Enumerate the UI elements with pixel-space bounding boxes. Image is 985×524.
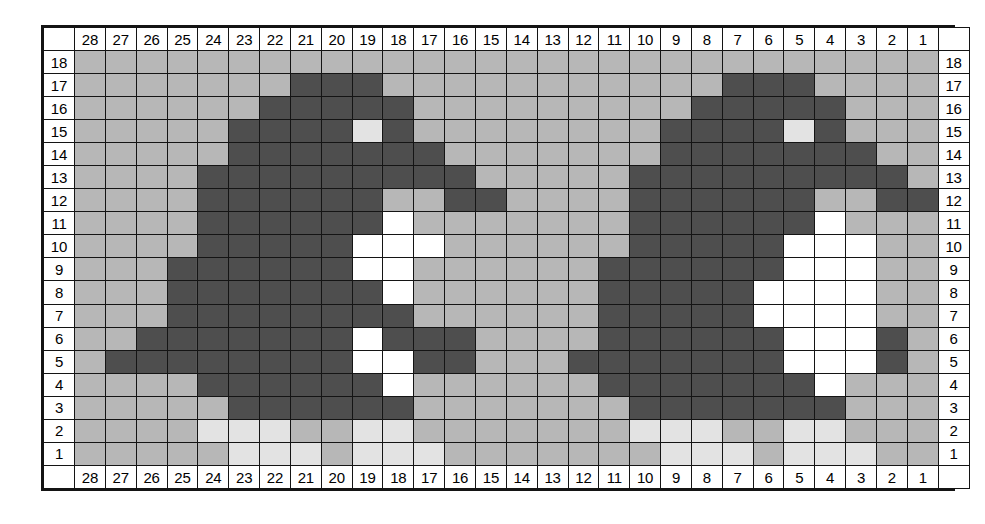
chart-cell-r6-c16[interactable] — [445, 327, 476, 350]
chart-cell-r13-c23[interactable] — [229, 166, 260, 189]
chart-cell-r3-c2[interactable] — [876, 396, 907, 419]
chart-cell-r8-c15[interactable] — [475, 281, 506, 304]
chart-cell-r2-c6[interactable] — [753, 419, 784, 442]
chart-cell-r18-c17[interactable] — [414, 51, 445, 74]
chart-cell-r18-c18[interactable] — [383, 51, 414, 74]
chart-cell-r4-c5[interactable] — [784, 373, 815, 396]
chart-cell-r16-c11[interactable] — [599, 97, 630, 120]
chart-cell-r15-c28[interactable] — [75, 120, 106, 143]
chart-cell-r13-c13[interactable] — [537, 166, 568, 189]
chart-cell-r11-c27[interactable] — [105, 212, 136, 235]
chart-cell-r1-c2[interactable] — [876, 442, 907, 465]
chart-cell-r4-c6[interactable] — [753, 373, 784, 396]
chart-cell-r10-c15[interactable] — [475, 235, 506, 258]
chart-cell-r10-c7[interactable] — [722, 235, 753, 258]
chart-cell-r3-c6[interactable] — [753, 396, 784, 419]
chart-cell-r9-c21[interactable] — [290, 258, 321, 281]
chart-cell-r17-c21[interactable] — [290, 74, 321, 97]
chart-cell-r5-c25[interactable] — [167, 350, 198, 373]
chart-cell-r9-c26[interactable] — [136, 258, 167, 281]
chart-cell-r8-c11[interactable] — [599, 281, 630, 304]
chart-cell-r15-c25[interactable] — [167, 120, 198, 143]
chart-cell-r15-c15[interactable] — [475, 120, 506, 143]
chart-cell-r8-c22[interactable] — [260, 281, 291, 304]
chart-cell-r8-c13[interactable] — [537, 281, 568, 304]
chart-cell-r9-c1[interactable] — [907, 258, 938, 281]
chart-cell-r16-c18[interactable] — [383, 97, 414, 120]
chart-cell-r10-c25[interactable] — [167, 235, 198, 258]
chart-cell-r11-c8[interactable] — [691, 212, 722, 235]
chart-cell-r15-c18[interactable] — [383, 120, 414, 143]
chart-cell-r15-c6[interactable] — [753, 120, 784, 143]
chart-cell-r11-c5[interactable] — [784, 212, 815, 235]
chart-cell-r3-c8[interactable] — [691, 396, 722, 419]
chart-cell-r5-c23[interactable] — [229, 350, 260, 373]
chart-cell-r1-c19[interactable] — [352, 442, 383, 465]
chart-cell-r15-c16[interactable] — [445, 120, 476, 143]
chart-cell-r1-c6[interactable] — [753, 442, 784, 465]
chart-cell-r1-c13[interactable] — [537, 442, 568, 465]
chart-cell-r3-c17[interactable] — [414, 396, 445, 419]
chart-cell-r3-c22[interactable] — [260, 396, 291, 419]
chart-cell-r7-c6[interactable] — [753, 304, 784, 327]
chart-cell-r5-c17[interactable] — [414, 350, 445, 373]
chart-cell-r14-c2[interactable] — [876, 143, 907, 166]
chart-cell-r13-c19[interactable] — [352, 166, 383, 189]
chart-cell-r14-c19[interactable] — [352, 143, 383, 166]
chart-cell-r15-c2[interactable] — [876, 120, 907, 143]
chart-cell-r14-c9[interactable] — [661, 143, 692, 166]
chart-cell-r14-c18[interactable] — [383, 143, 414, 166]
chart-cell-r5-c16[interactable] — [445, 350, 476, 373]
chart-cell-r4-c25[interactable] — [167, 373, 198, 396]
chart-cell-r3-c25[interactable] — [167, 396, 198, 419]
chart-cell-r2-c9[interactable] — [661, 419, 692, 442]
chart-cell-r10-c21[interactable] — [290, 235, 321, 258]
chart-cell-r2-c24[interactable] — [198, 419, 229, 442]
chart-cell-r5-c2[interactable] — [876, 350, 907, 373]
chart-cell-r1-c4[interactable] — [815, 442, 846, 465]
chart-cell-r1-c7[interactable] — [722, 442, 753, 465]
chart-cell-r7-c8[interactable] — [691, 304, 722, 327]
chart-cell-r17-c9[interactable] — [661, 74, 692, 97]
chart-cell-r14-c4[interactable] — [815, 143, 846, 166]
chart-cell-r15-c8[interactable] — [691, 120, 722, 143]
chart-cell-r12-c17[interactable] — [414, 189, 445, 212]
chart-cell-r1-c23[interactable] — [229, 442, 260, 465]
chart-cell-r11-c20[interactable] — [321, 212, 352, 235]
chart-cell-r8-c26[interactable] — [136, 281, 167, 304]
chart-cell-r13-c10[interactable] — [630, 166, 661, 189]
chart-cell-r15-c26[interactable] — [136, 120, 167, 143]
chart-cell-r8-c25[interactable] — [167, 281, 198, 304]
chart-cell-r9-c10[interactable] — [630, 258, 661, 281]
chart-cell-r9-c4[interactable] — [815, 258, 846, 281]
chart-cell-r11-c13[interactable] — [537, 212, 568, 235]
chart-cell-r11-c6[interactable] — [753, 212, 784, 235]
chart-cell-r14-c11[interactable] — [599, 143, 630, 166]
chart-cell-r16-c3[interactable] — [846, 97, 877, 120]
chart-cell-r18-c21[interactable] — [290, 51, 321, 74]
chart-cell-r5-c8[interactable] — [691, 350, 722, 373]
chart-cell-r4-c9[interactable] — [661, 373, 692, 396]
chart-cell-r16-c8[interactable] — [691, 97, 722, 120]
chart-cell-r18-c12[interactable] — [568, 51, 599, 74]
chart-cell-r9-c12[interactable] — [568, 258, 599, 281]
chart-cell-r12-c20[interactable] — [321, 189, 352, 212]
chart-cell-r5-c14[interactable] — [506, 350, 537, 373]
chart-cell-r3-c11[interactable] — [599, 396, 630, 419]
chart-cell-r15-c4[interactable] — [815, 120, 846, 143]
chart-cell-r10-c12[interactable] — [568, 235, 599, 258]
chart-cell-r13-c2[interactable] — [876, 166, 907, 189]
chart-cell-r11-c1[interactable] — [907, 212, 938, 235]
chart-cell-r13-c26[interactable] — [136, 166, 167, 189]
chart-cell-r7-c10[interactable] — [630, 304, 661, 327]
chart-cell-r17-c4[interactable] — [815, 74, 846, 97]
chart-cell-r1-c11[interactable] — [599, 442, 630, 465]
chart-cell-r8-c5[interactable] — [784, 281, 815, 304]
chart-cell-r10-c22[interactable] — [260, 235, 291, 258]
chart-cell-r13-c15[interactable] — [475, 166, 506, 189]
chart-cell-r10-c5[interactable] — [784, 235, 815, 258]
chart-cell-r11-c15[interactable] — [475, 212, 506, 235]
chart-cell-r10-c24[interactable] — [198, 235, 229, 258]
chart-cell-r3-c21[interactable] — [290, 396, 321, 419]
chart-cell-r5-c4[interactable] — [815, 350, 846, 373]
